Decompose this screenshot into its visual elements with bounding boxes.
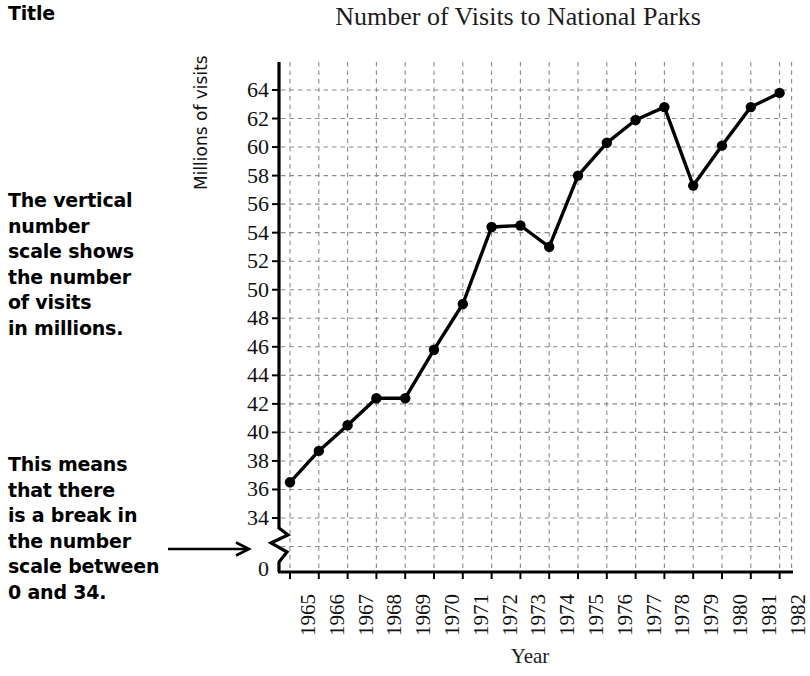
y-axis-tick-label: 50	[223, 279, 269, 301]
annotation-scale-note: The vertical number scale shows the numb…	[8, 188, 213, 341]
y-axis-tick-label: 44	[223, 364, 269, 386]
x-axis-tick-label: 1967	[356, 594, 377, 636]
y-axis-title: Millions of visits	[191, 0, 215, 190]
y-axis-tick-label: 54	[223, 222, 269, 244]
y-axis-zero-label: 0	[223, 558, 269, 580]
y-axis-tick-label: 58	[223, 165, 269, 187]
y-axis-tick-label: 34	[223, 507, 269, 529]
x-axis-tick-label: 1978	[672, 594, 693, 636]
x-axis-tick-label: 1975	[586, 594, 607, 636]
x-axis-tick-label: 1970	[442, 594, 463, 636]
y-axis-tick-label: 60	[223, 136, 269, 158]
x-axis-tick-label: 1971	[471, 594, 492, 636]
x-axis-tick-label: 1966	[327, 594, 348, 636]
x-axis-tick-label: 1979	[701, 594, 722, 636]
x-axis-tick-label: 1981	[759, 594, 780, 636]
y-axis-tick-label: 36	[223, 478, 269, 500]
y-axis-tick-label: 46	[223, 336, 269, 358]
y-axis-tick-label: 40	[223, 421, 269, 443]
y-axis-tick-label: 64	[223, 79, 269, 101]
x-axis-tick-label: 1972	[500, 594, 521, 636]
x-axis-tick-label: 1973	[528, 594, 549, 636]
y-axis-tick-label: 42	[223, 393, 269, 415]
x-axis-tick-label: 1977	[644, 594, 665, 636]
annotation-break-note: This means that there is a break in the …	[8, 452, 223, 605]
y-axis-tick-label: 52	[223, 250, 269, 272]
x-axis-title: Year	[430, 644, 630, 669]
arrow-right-icon	[168, 541, 258, 557]
y-axis-tick-label: 38	[223, 450, 269, 472]
x-axis-tick-label: 1982	[788, 594, 809, 636]
chart-title: Number of Visits to National Parks	[258, 2, 778, 32]
y-axis-tick-label: 48	[223, 307, 269, 329]
title-callout-label: Title	[8, 2, 55, 24]
x-axis-tick-label: 1974	[557, 594, 578, 636]
y-axis-tick-label: 56	[223, 193, 269, 215]
x-axis-tick-label: 1969	[413, 594, 434, 636]
x-axis-tick-label: 1965	[298, 594, 319, 636]
y-axis-tick-label: 62	[223, 108, 269, 130]
x-axis-tick-label: 1976	[615, 594, 636, 636]
x-axis-tick-label: 1980	[730, 594, 751, 636]
x-axis-tick-label: 1968	[384, 594, 405, 636]
